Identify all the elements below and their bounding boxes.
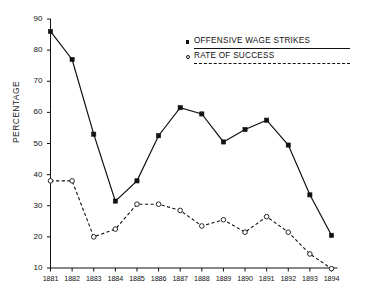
x-tick-label: 1881 (40, 274, 62, 283)
y-tick-label: 20 (21, 233, 43, 241)
y-tick-label: 50 (21, 140, 43, 148)
x-tick-label: 1889 (212, 274, 234, 283)
data-point-marker-filled (329, 233, 333, 237)
y-tick-label: 90 (21, 15, 43, 23)
data-point-marker-filled (70, 57, 74, 61)
chart-figure: PERCENTAGE 908070605040302010 1881188218… (0, 0, 373, 294)
y-tick-label: 60 (21, 108, 43, 116)
data-point-marker-filled (178, 106, 182, 110)
data-point-marker-filled (265, 118, 269, 122)
data-point-marker-filled (135, 179, 139, 183)
x-tick-label: 1892 (277, 274, 299, 283)
data-point-marker-open (264, 214, 269, 219)
x-tick-label: 1883 (83, 274, 105, 283)
x-tick-label: 1893 (299, 274, 321, 283)
x-tick-label: 1890 (234, 274, 256, 283)
series-line (51, 181, 332, 269)
data-point-marker-filled (221, 140, 225, 144)
data-point-marker-open (135, 202, 140, 207)
y-tick-label: 80 (21, 46, 43, 54)
x-tick-label: 1882 (61, 274, 83, 283)
legend-label-rate-of-success: RATE OF SUCCESS (194, 51, 350, 61)
data-point-marker-open (70, 179, 75, 184)
x-tick-label: 1894 (321, 274, 343, 283)
data-point-marker-open (113, 227, 118, 232)
y-tick-label: 70 (21, 77, 43, 85)
x-tick-label: 1886 (148, 274, 170, 283)
data-point-marker-open (91, 235, 96, 240)
x-tick-label: 1887 (169, 274, 191, 283)
data-point-marker-open (156, 202, 161, 207)
data-point-marker-filled (243, 127, 247, 131)
y-tick-label: 40 (21, 171, 43, 179)
data-point-marker-open (200, 224, 205, 229)
data-point-marker-open (48, 179, 53, 184)
data-point-marker-filled (200, 112, 204, 116)
data-point-marker-filled (48, 29, 52, 33)
data-point-marker-open (308, 252, 313, 257)
data-point-marker-filled (92, 132, 96, 136)
y-axis-title: PERCENTAGE (11, 64, 21, 160)
data-point-marker-open (221, 217, 226, 222)
series-rate-of-success (48, 179, 334, 271)
data-point-marker-open (243, 230, 248, 235)
x-tick-label: 1884 (104, 274, 126, 283)
y-tick-label: 10 (21, 264, 43, 272)
data-point-marker-filled (156, 134, 160, 138)
data-point-marker-open (286, 230, 291, 235)
x-tick-label: 1885 (126, 274, 148, 283)
data-point-marker-filled (308, 193, 312, 197)
data-point-marker-filled (113, 199, 117, 203)
legend-rule-solid (194, 48, 350, 49)
legend-item-offensive-wage-strikes: OFFENSIVE WAGE STRIKES (181, 36, 350, 51)
filled-square-marker-icon (181, 36, 194, 47)
data-point-marker-filled (286, 143, 290, 147)
legend-rule-dashed (194, 63, 350, 64)
data-point-marker-open (178, 208, 183, 213)
data-point-marker-open (329, 266, 334, 271)
y-tick-label: 30 (21, 202, 43, 210)
chart-legend: OFFENSIVE WAGE STRIKES RATE OF SUCCESS (181, 36, 350, 66)
x-tick-label: 1888 (191, 274, 213, 283)
open-circle-marker-icon (181, 51, 194, 62)
legend-item-rate-of-success: RATE OF SUCCESS (181, 51, 350, 66)
legend-label-offensive-wage-strikes: OFFENSIVE WAGE STRIKES (194, 36, 350, 46)
x-tick-label: 1891 (256, 274, 278, 283)
